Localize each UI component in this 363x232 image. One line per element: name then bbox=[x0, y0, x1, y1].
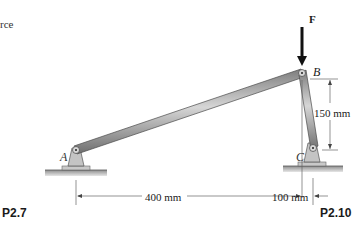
mechanism-diagram: rce F B A C 150 mm 400 mm 100 mm P2.7 P2… bbox=[0, 0, 363, 232]
force-label: F bbox=[309, 13, 316, 25]
point-label-B: B bbox=[313, 65, 320, 80]
dimension-100mm: 100 mm bbox=[272, 191, 308, 203]
cropped-text: rce bbox=[0, 18, 13, 30]
force-arrow-icon bbox=[297, 27, 307, 66]
figure-caption-left: P2.7 bbox=[2, 206, 27, 220]
dimension-150mm: 150 mm bbox=[314, 107, 350, 119]
diagram-graphics bbox=[0, 0, 363, 232]
dimension-400mm: 400 mm bbox=[145, 191, 181, 203]
point-label-C: C bbox=[296, 150, 304, 165]
figure-caption-right: P2.10 bbox=[320, 206, 351, 220]
point-label-A: A bbox=[60, 150, 67, 165]
link-AB bbox=[74, 69, 304, 154]
dimension-lines bbox=[76, 79, 338, 205]
